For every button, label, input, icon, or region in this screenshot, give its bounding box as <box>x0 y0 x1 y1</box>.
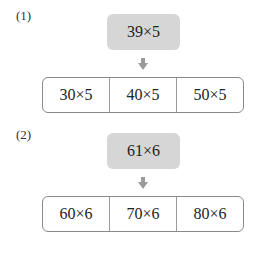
down-arrow-icon <box>138 58 148 70</box>
option-text: 80×6 <box>193 205 226 223</box>
source-expression-text: 61×6 <box>127 142 160 160</box>
down-arrow-icon <box>138 177 148 189</box>
option-text: 50×5 <box>193 86 226 104</box>
option-cell[interactable]: 60×6 <box>43 197 109 231</box>
estimate-options: 30×5 40×5 50×5 <box>42 77 244 113</box>
problem-1: (1) 39×5 30×5 40×5 50×5 <box>0 0 255 120</box>
source-expression-text: 39×5 <box>127 23 160 41</box>
option-text: 70×6 <box>126 205 159 223</box>
problem-2: (2) 61×6 60×6 70×6 80×6 <box>0 119 255 239</box>
option-text: 60×6 <box>59 205 92 223</box>
option-text: 40×5 <box>126 86 159 104</box>
option-text: 30×5 <box>59 86 92 104</box>
source-expression: 39×5 <box>107 14 180 50</box>
option-cell[interactable]: 80×6 <box>176 197 243 231</box>
problem-label: (1) <box>16 8 31 24</box>
problem-label: (2) <box>16 127 31 143</box>
estimate-options: 60×6 70×6 80×6 <box>42 196 244 232</box>
option-cell[interactable]: 30×5 <box>43 78 109 112</box>
option-cell[interactable]: 40×5 <box>109 78 176 112</box>
option-cell[interactable]: 70×6 <box>109 197 176 231</box>
option-cell[interactable]: 50×5 <box>176 78 243 112</box>
source-expression: 61×6 <box>107 133 180 169</box>
